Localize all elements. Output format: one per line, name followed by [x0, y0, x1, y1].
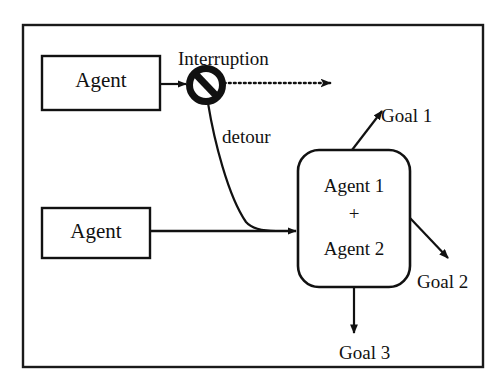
agent-box-bottom-label: Agent	[42, 221, 150, 242]
goal-2-label: Goal 2	[417, 272, 468, 291]
detour-label: detour	[222, 127, 271, 146]
edge-to-goal-1	[352, 111, 382, 150]
edge-detour-path	[208, 103, 276, 231]
merged-agent-1-label: Agent 1	[298, 176, 410, 195]
diagram-canvas: Agent Agent Interruption detour Agent 1 …	[0, 0, 499, 389]
goal-3-label: Goal 3	[339, 343, 390, 362]
merged-agent-2-label: Agent 2	[298, 239, 410, 258]
merged-operator-label: +	[298, 204, 410, 223]
goal-1-label: Goal 1	[381, 106, 432, 125]
agent-box-top-label: Agent	[42, 70, 160, 91]
no-entry-icon	[190, 69, 223, 102]
interruption-label: Interruption	[178, 49, 269, 68]
edge-to-goal-2	[410, 218, 448, 258]
